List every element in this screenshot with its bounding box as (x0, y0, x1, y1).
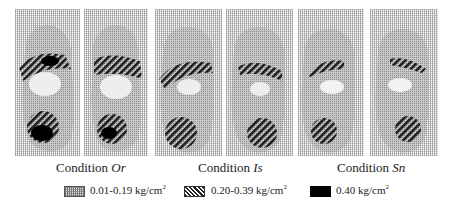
pressure-map-sn-right (370, 9, 438, 156)
pressure-map-or-left (15, 9, 80, 156)
caption-condition-sn: Condition Sn (337, 160, 405, 176)
caption-condition-or: Condition Or (56, 160, 126, 176)
caption-condition-is: Condition Is (198, 160, 263, 176)
pressure-map-is-left (155, 9, 222, 156)
pressure-map-is-right (226, 9, 293, 156)
condition-code: Sn (392, 160, 405, 175)
legend-swatch-low (64, 186, 85, 197)
condition-code: Is (253, 160, 262, 175)
legend-label-low: 0.01-0.19 kg/cm2 (90, 183, 166, 196)
legend-label-high: 0.40 kg/cm2 (336, 183, 389, 196)
legend-swatch-mid (184, 186, 205, 197)
condition-code: Or (111, 160, 125, 175)
legend-label-mid: 0.20-0.39 kg/cm2 (211, 183, 287, 196)
pressure-map-or-right (84, 9, 148, 156)
legend-swatch-high (310, 186, 331, 197)
pressure-map-sn-left (298, 9, 364, 156)
